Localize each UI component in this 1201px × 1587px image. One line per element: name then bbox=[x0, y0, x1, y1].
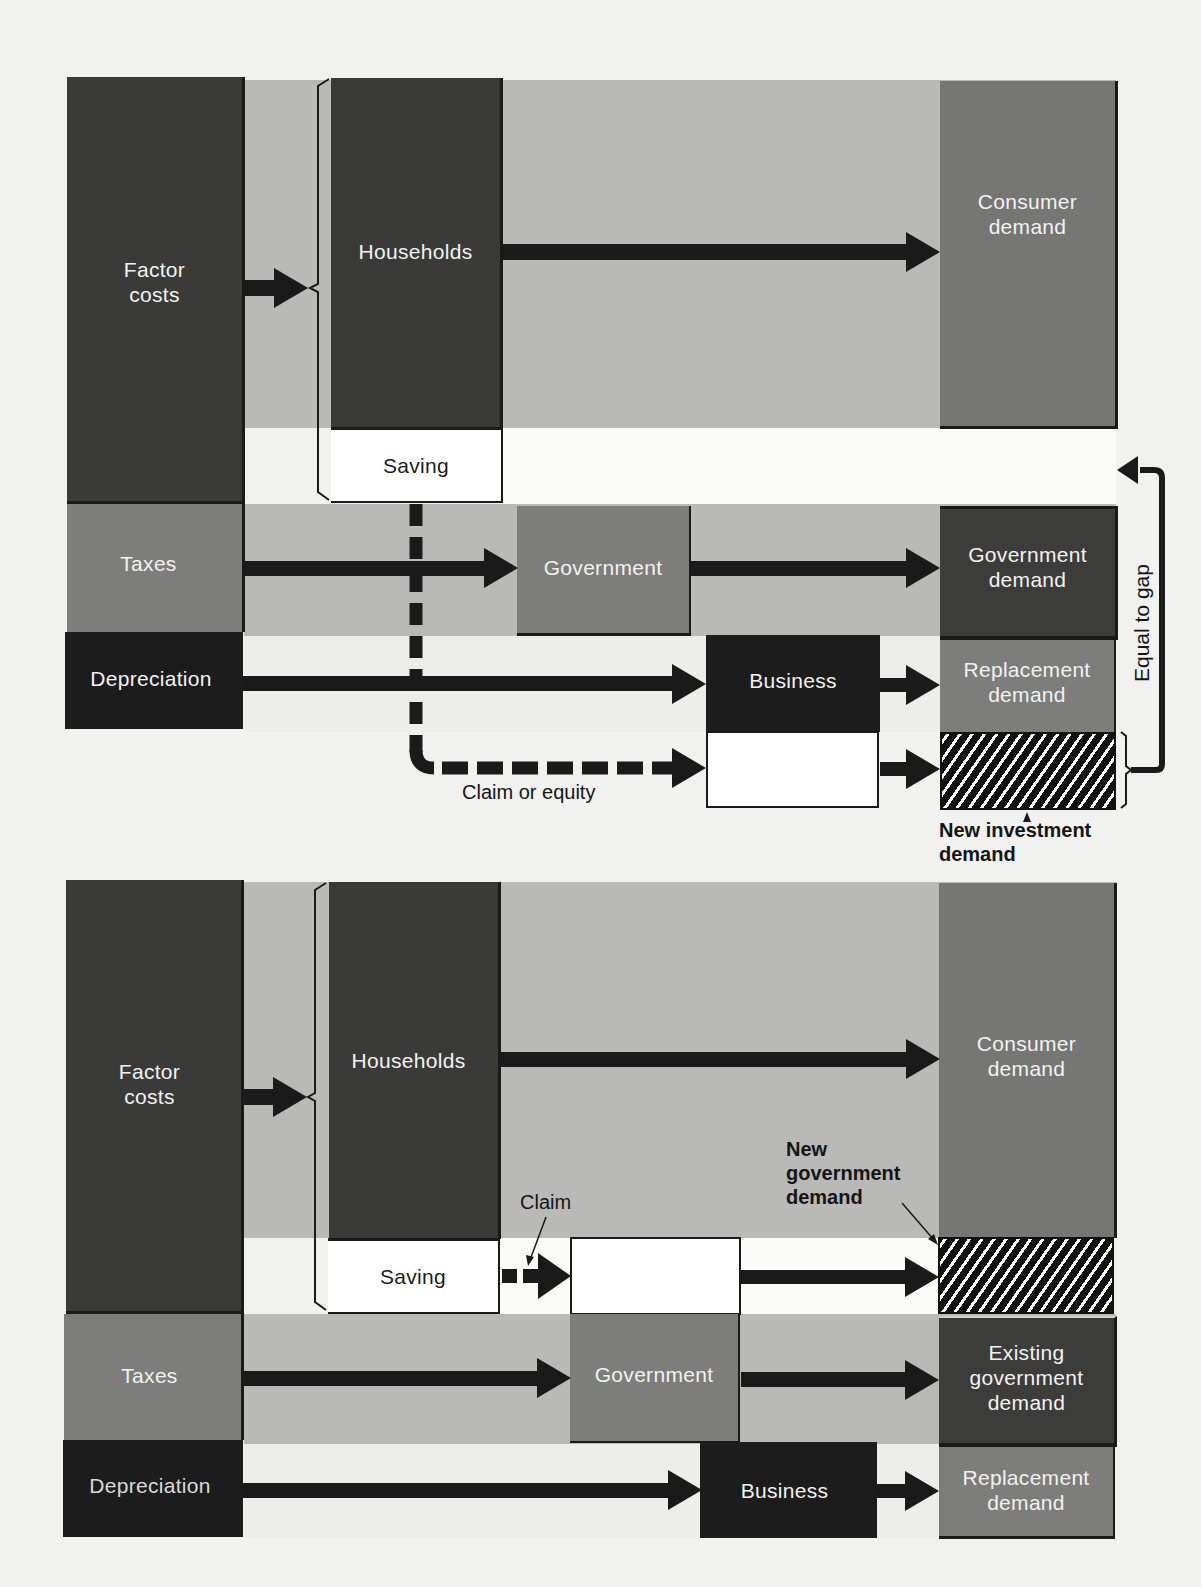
taxes-label: Taxes bbox=[120, 551, 176, 576]
equal-to-gap-label: Equal to gap bbox=[1082, 610, 1201, 636]
consumer-demand-block: Consumer demand bbox=[940, 81, 1118, 429]
government-demand-label: Government demand bbox=[968, 542, 1087, 592]
business-label: Business bbox=[749, 668, 837, 693]
replacement-demand-block: Replacement demand bbox=[940, 640, 1116, 732]
government-label: Government bbox=[544, 555, 663, 580]
existing-government-demand-block: Existing government demand bbox=[939, 1316, 1117, 1447]
business-block-2: Business bbox=[700, 1442, 877, 1538]
new-investment-demand-block bbox=[940, 732, 1116, 810]
taxes-block: Taxes bbox=[67, 504, 245, 632]
households-label-2: Households bbox=[352, 1048, 466, 1073]
depreciation-block-2: Depreciation bbox=[63, 1440, 243, 1537]
business-label-2: Business bbox=[741, 1478, 829, 1503]
households-block: Households bbox=[331, 78, 503, 428]
factor-costs-label: Factor costs bbox=[124, 257, 185, 307]
depreciation-label: Depreciation bbox=[90, 666, 212, 691]
replacement-demand-block-2: Replacement demand bbox=[939, 1447, 1115, 1539]
factor-costs-block: Factor costs bbox=[67, 77, 245, 504]
saving-band bbox=[500, 428, 1116, 504]
new-government-demand-block bbox=[938, 1237, 1114, 1314]
business-block: Business bbox=[706, 635, 880, 732]
households-label: Households bbox=[359, 239, 473, 264]
brace-new-investment bbox=[1121, 732, 1131, 808]
government-block: Government bbox=[517, 506, 691, 636]
claim-label: Claim bbox=[520, 1190, 571, 1214]
consumer-demand-block-2: Consumer demand bbox=[939, 883, 1117, 1238]
replacement-demand-label-2: Replacement demand bbox=[962, 1465, 1089, 1515]
saving-label-2: Saving bbox=[380, 1264, 446, 1289]
factor-costs-block-2: Factor costs bbox=[66, 880, 244, 1314]
consumer-demand-label: Consumer demand bbox=[978, 189, 1077, 239]
depreciation-block: Depreciation bbox=[65, 632, 243, 729]
depreciation-label-2: Depreciation bbox=[89, 1473, 211, 1498]
consumer-demand-label-2: Consumer demand bbox=[977, 1031, 1076, 1081]
replacement-demand-label: Replacement demand bbox=[963, 657, 1090, 707]
new-investment-demand-label: New investment demand bbox=[939, 818, 1091, 866]
saving-label: Saving bbox=[383, 453, 449, 478]
claim-or-equity-label: Claim or equity bbox=[462, 780, 595, 804]
households-block-2: Households bbox=[329, 882, 501, 1239]
saving-block: Saving bbox=[331, 427, 503, 503]
government-block-2: Government bbox=[570, 1314, 740, 1443]
government-borrowing-block bbox=[570, 1237, 741, 1315]
taxes-label-2: Taxes bbox=[121, 1363, 177, 1388]
government-label-2: Government bbox=[595, 1362, 714, 1387]
taxes-block-2: Taxes bbox=[64, 1314, 244, 1440]
saving-block-2: Saving bbox=[328, 1238, 500, 1314]
existing-government-demand-label: Existing government demand bbox=[970, 1340, 1084, 1415]
factor-costs-label-2: Factor costs bbox=[119, 1059, 180, 1109]
new-business-block bbox=[706, 731, 879, 808]
arrow-business-to-investment bbox=[880, 749, 940, 789]
new-government-demand-label: New government demand bbox=[786, 1137, 900, 1209]
